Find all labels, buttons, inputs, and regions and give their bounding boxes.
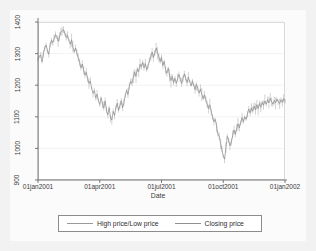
- x-tick-label: 01jan2001: [23, 183, 53, 190]
- y-tick-label: 1200: [2, 81, 32, 89]
- x-tick-label: 01apr2001: [84, 183, 115, 190]
- legend-label-high-low: High price/Low price: [97, 220, 159, 227]
- y-axis-labels: 14001300120011001000900: [0, 0, 34, 251]
- legend-item-closing[interactable]: Closing price: [175, 220, 244, 227]
- chart-screenshot: 14001300120011001000900 01jan200101apr20…: [0, 0, 316, 251]
- x-tick-label: 01oct2001: [208, 183, 238, 190]
- x-tick-label: 01jan2002: [270, 183, 300, 190]
- closing-price-series: [38, 30, 285, 159]
- y-tick-label: 1000: [2, 144, 32, 152]
- gridlines: [39, 22, 284, 148]
- x-axis-title: Date: [0, 192, 316, 199]
- y-tick-label: 1100: [2, 113, 32, 121]
- legend-label-closing: Closing price: [205, 220, 244, 227]
- legend-item-high-low[interactable]: High price/Low price: [67, 220, 159, 227]
- x-tick-label: 01jul2001: [147, 183, 175, 190]
- legend-key-high-low-icon: [67, 223, 93, 224]
- plot-canvas: [0, 0, 316, 251]
- y-tick-label: 1300: [2, 50, 32, 58]
- high-low-range-series: [38, 26, 285, 163]
- legend-key-closing-icon: [175, 223, 201, 224]
- y-tick-label: 1400: [2, 18, 32, 26]
- legend: High price/Low price Closing price: [58, 215, 262, 232]
